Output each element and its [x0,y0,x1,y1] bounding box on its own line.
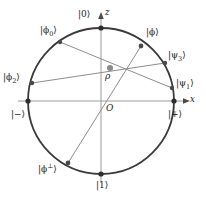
bloch-circle-diagram: x z |0⟩ |1⟩ |+⟩ |−⟩ |ϕ⟩ |ϕ⊥⟩ |ϕ0⟩ |ϕ2⟩ |… [0,0,206,202]
label-ket-phi-0: |ϕ0⟩ [40,26,57,35]
label-ket-psi-1-close: ⟩ [190,78,194,88]
label-ket-0: |0⟩ [78,10,90,19]
label-ket-psi-3: |ψ3⟩ [168,51,186,60]
label-ket-phi: |ϕ⟩ [146,28,159,37]
point-ket-phi-2 [30,81,34,85]
label-ket-phi-2-close: ⟩ [16,72,20,82]
diagram-canvas [0,0,206,202]
point-ket-minus [25,98,30,103]
label-rho: ρ [105,72,110,81]
label-ket-phi-2: |ϕ2⟩ [3,73,20,82]
label-ket-plus: |+⟩ [168,110,182,119]
point-ket-phi [139,44,144,49]
x-axis-label: x [190,95,195,104]
label-ket-phi-2-base: |ϕ [3,72,12,82]
point-ket-phi-0 [58,40,62,44]
label-ket-psi-3-base: |ψ [168,50,178,60]
label-origin: O [106,104,113,113]
label-ket-minus: |−⟩ [11,110,25,119]
point-ket-phi-perp [66,161,71,166]
point-ket-1 [98,171,103,176]
point-ket-plus [171,98,176,103]
z-axis-arrowhead [98,12,104,19]
point-ket-psi-3 [163,61,167,65]
point-ket-psi-1 [170,86,174,90]
label-ket-phi-perp: |ϕ⊥⟩ [38,165,57,174]
label-ket-phi-perp-base: |ϕ [38,164,47,174]
z-axis-label: z [105,8,109,17]
label-ket-phi-0-close: ⟩ [53,25,57,35]
label-ket-phi-0-base: |ϕ [40,25,49,35]
x-axis-arrowhead [183,98,190,104]
label-ket-1: |1⟩ [96,181,108,190]
chord-phi-to-phi-perp [68,46,141,163]
label-ket-psi-1-base: |ψ [176,78,186,88]
label-ket-psi-1: |ψ1⟩ [176,79,194,88]
chord-phi2-to-psi3 [32,63,165,83]
chord-phi0-to-psi1 [60,42,172,88]
point-ket-0 [98,25,103,30]
label-ket-phi-perp-close: ⟩ [53,164,57,174]
label-ket-psi-3-close: ⟩ [182,50,186,60]
